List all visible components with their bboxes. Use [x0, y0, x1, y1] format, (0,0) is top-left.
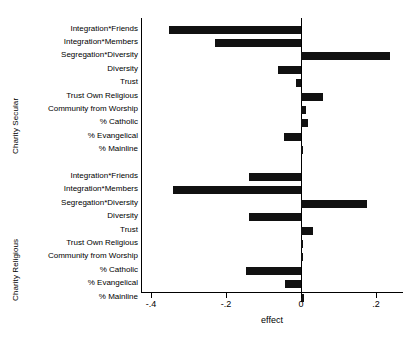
bar — [173, 186, 301, 194]
bar — [284, 133, 301, 141]
category-label: Integration*Members — [64, 37, 138, 46]
bar — [301, 93, 323, 101]
bar — [301, 253, 303, 261]
bar — [301, 227, 313, 235]
category-label: Segregation*Diversity — [61, 50, 138, 59]
bar — [285, 280, 301, 288]
bar — [301, 119, 308, 127]
bar — [301, 240, 303, 248]
category-label: % Evangelical — [88, 278, 138, 287]
category-labels: Integration*FriendsIntegration*MembersSe… — [14, 0, 138, 338]
bar — [246, 267, 301, 275]
category-label: Diversity — [107, 211, 138, 220]
category-label: Trust Own Religious — [66, 238, 138, 247]
category-label: Integration*Friends — [70, 171, 138, 180]
category-label: % Mainline — [99, 292, 138, 301]
bar — [296, 79, 301, 87]
plot-area — [141, 18, 403, 292]
category-label: Trust — [120, 225, 138, 234]
category-label: % Evangelical — [88, 131, 138, 140]
category-label: Trust Own Religious — [66, 91, 138, 100]
category-label: Trust — [120, 77, 138, 86]
axis-line-bottom — [141, 292, 403, 293]
category-label: Community from Worship — [48, 251, 138, 260]
bar — [301, 52, 390, 60]
group-label-charity-religious: Charity Religious — [0, 167, 14, 301]
bar — [278, 66, 301, 74]
bar — [249, 173, 301, 181]
effect-bar-chart: Charity Secular Charity Religious Integr… — [0, 0, 404, 338]
category-label: % Catholic — [100, 265, 138, 274]
x-axis-tick — [301, 293, 302, 298]
category-label: Diversity — [107, 64, 138, 73]
x-axis-tick — [151, 293, 152, 298]
x-axis-tick — [376, 293, 377, 298]
category-label: Integration*Members — [64, 184, 138, 193]
x-axis-tick — [226, 293, 227, 298]
category-label: Community from Worship — [48, 104, 138, 113]
bar — [249, 213, 301, 221]
bar — [301, 106, 306, 114]
x-axis-tick-label: -.4 — [136, 299, 166, 309]
x-axis-tick-label: -.2 — [211, 299, 241, 309]
x-axis-tick-label: .2 — [361, 299, 391, 309]
category-label: % Mainline — [99, 144, 138, 153]
group-label-charity-secular: Charity Secular — [0, 20, 14, 154]
bar — [215, 39, 301, 47]
category-label: Segregation*Diversity — [61, 198, 138, 207]
category-label: % Catholic — [100, 117, 138, 126]
bar — [169, 26, 301, 34]
bar — [301, 200, 367, 208]
x-axis-tick-label: 0 — [286, 299, 316, 309]
bar — [301, 146, 303, 154]
x-axis-title: effect — [141, 315, 403, 325]
category-label: Integration*Friends — [70, 24, 138, 33]
